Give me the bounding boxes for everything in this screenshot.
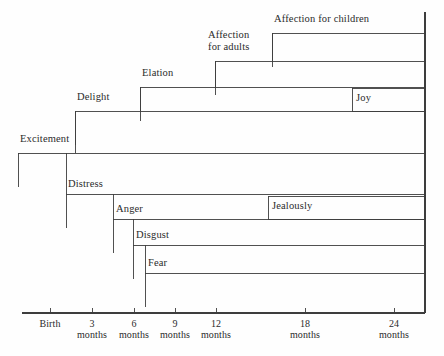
bar-label-jealously: Jealously — [272, 200, 312, 212]
bar-fear — [145, 273, 425, 307]
axis-tick-label-24: 24months — [364, 318, 424, 340]
bar-label-delight: Delight — [77, 91, 110, 103]
axis-tick-label-18: 18months — [275, 318, 335, 340]
emotional-development-chart: Affection for childrenAffection for adul… — [0, 0, 444, 356]
tick-value: 9 — [172, 318, 177, 329]
bar-delight — [75, 111, 425, 145]
bar-label-affection-for-adults: Affection for adults — [208, 29, 249, 52]
tick-value: Birth — [39, 318, 60, 329]
tick-unit: months — [275, 329, 335, 340]
bars-layer — [18, 12, 425, 313]
bar-disgust — [133, 245, 425, 279]
bar-label-joy: Joy — [356, 92, 371, 104]
tick-value: 12 — [211, 318, 221, 329]
tick-value: 18 — [300, 318, 310, 329]
bar-elation — [140, 87, 425, 121]
tick-unit: months — [186, 329, 246, 340]
bar-label-anger: Anger — [116, 203, 143, 215]
bar-affection-for-adults — [215, 61, 425, 95]
tick-value: 24 — [389, 318, 399, 329]
chart-canvas — [0, 0, 444, 356]
axis-tick-label-12: 12months — [186, 318, 246, 340]
bar-label-affection-for-children: Affection for children — [274, 13, 369, 25]
tick-value: 3 — [89, 318, 94, 329]
bar-label-distress: Distress — [68, 178, 103, 190]
bar-affection-for-children — [272, 33, 425, 67]
tick-value: 6 — [131, 318, 136, 329]
tick-unit: months — [364, 329, 424, 340]
bar-label-fear: Fear — [148, 257, 167, 269]
axis-layer — [22, 308, 425, 313]
bar-label-elation: Elation — [142, 67, 173, 79]
bar-label-excitement: Excitement — [20, 133, 69, 145]
bar-label-disgust: Disgust — [136, 229, 169, 241]
